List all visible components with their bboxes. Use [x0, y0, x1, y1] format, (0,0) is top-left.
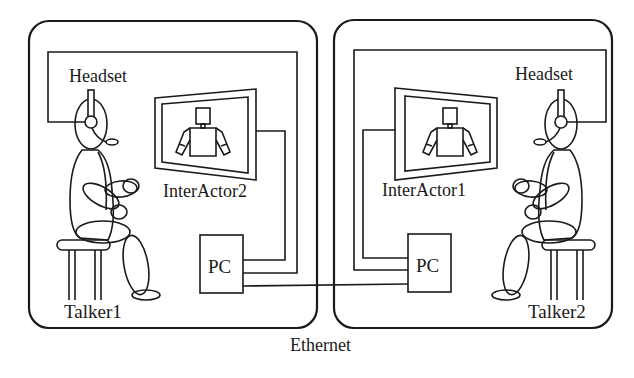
- room-1-pc-label: PC: [208, 256, 231, 277]
- room-1-display: [155, 89, 256, 180]
- headset-icon: [558, 90, 564, 118]
- ethernet-cable: [243, 284, 408, 286]
- robot-avatar-icon: [176, 108, 230, 156]
- stool-icon: [542, 240, 595, 250]
- ethernet-label: Ethernet: [290, 335, 351, 355]
- room-1-display-cable: [243, 131, 285, 260]
- stool-icon: [57, 240, 110, 250]
- room-2-display: [395, 88, 497, 180]
- room-2-headset-label: Headset: [515, 64, 573, 84]
- room-1-headset-label: Headset: [69, 66, 127, 86]
- room-2-pc-label: PC: [416, 255, 439, 276]
- headset-icon: [88, 90, 94, 118]
- room-1: Headset InterActor2 PC: [29, 21, 317, 328]
- room-2-display-label: InterActor1: [382, 180, 466, 200]
- robot-avatar-icon: [423, 108, 477, 156]
- room-2-talker-label: Talker2: [528, 301, 586, 322]
- room-1-talker-label: Talker1: [64, 301, 122, 322]
- room-2: Headset InterActor1 PC: [334, 20, 612, 328]
- room-1-display-label: InterActor2: [163, 181, 247, 201]
- interactor-system-diagram: Headset InterActor2 PC: [0, 0, 634, 378]
